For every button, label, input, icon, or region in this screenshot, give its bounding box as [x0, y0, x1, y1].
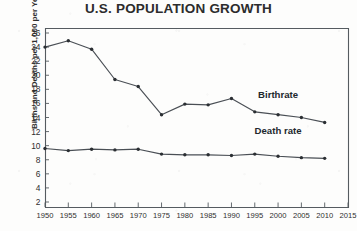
y-tick-label: 16	[31, 98, 41, 108]
data-point-birthrate-1985	[206, 103, 209, 106]
data-point-birthrate-1995	[253, 110, 256, 113]
data-point-death-rate-1955	[67, 149, 70, 152]
data-point-death-rate-1960	[90, 147, 93, 150]
x-tick-label: 2015	[340, 211, 357, 220]
x-tick-label: 2000	[270, 211, 287, 220]
x-tick-label: 1960	[83, 211, 100, 220]
data-point-death-rate-2010	[323, 157, 326, 160]
data-point-birthrate-2000	[276, 113, 279, 116]
data-point-death-rate-1980	[183, 153, 186, 156]
data-point-birthrate-1975	[160, 113, 163, 116]
y-tick-label: 4	[36, 183, 41, 193]
y-tick-label: 18	[31, 84, 41, 94]
x-tick-label: 1965	[106, 211, 123, 220]
y-axis-ticks: 2624222018161412108642	[31, 28, 49, 207]
series-annotation-birthrate: Birthrate	[258, 89, 298, 100]
series-line-birthrate	[45, 41, 325, 123]
x-axis-ticks: 1950195519601965197019751980198519901995…	[37, 203, 357, 221]
data-point-birthrate-1960	[90, 48, 93, 51]
data-point-birthrate-1965	[113, 78, 116, 81]
data-point-death-rate-2005	[300, 156, 303, 159]
data-point-birthrate-2010	[323, 121, 326, 124]
x-tick-label: 1985	[200, 211, 217, 220]
data-point-death-rate-1990	[230, 154, 233, 157]
x-tick-label: 2010	[316, 211, 333, 220]
data-point-birthrate-1990	[230, 97, 233, 100]
chart-page: U.S. POPULATION GROWTH Births and Deaths…	[0, 0, 357, 231]
data-point-death-rate-1975	[160, 152, 163, 155]
y-tick-label: 12	[31, 127, 41, 137]
y-tick-label: 24	[31, 42, 41, 52]
y-tick-label: 14	[31, 113, 41, 123]
x-tick-label: 1950	[37, 211, 54, 220]
data-point-death-rate-1985	[206, 153, 209, 156]
data-point-death-rate-1970	[137, 147, 140, 150]
data-point-death-rate-1995	[253, 152, 256, 155]
data-point-birthrate-1950	[43, 45, 46, 48]
y-tick-label: 8	[36, 155, 41, 165]
data-point-death-rate-2000	[276, 155, 279, 158]
data-point-birthrate-1955	[67, 39, 70, 42]
line-chart-plot: 2624222018161412108642 19501955196019651…	[0, 0, 357, 231]
y-tick-label: 22	[31, 56, 41, 66]
data-point-death-rate-1950	[43, 147, 46, 150]
data-point-birthrate-1970	[137, 85, 140, 88]
y-tick-label: 20	[31, 70, 41, 80]
x-tick-label: 1990	[223, 211, 240, 220]
x-tick-label: 1955	[60, 211, 77, 220]
y-tick-label: 6	[36, 169, 41, 179]
series-annotation-death-rate: Death rate	[255, 125, 302, 136]
x-tick-label: 1970	[130, 211, 147, 220]
x-tick-label: 1995	[246, 211, 263, 220]
x-tick-label: 1980	[176, 211, 193, 220]
y-tick-label: 26	[31, 28, 41, 38]
data-point-death-rate-1965	[113, 148, 116, 151]
y-tick-label: 2	[36, 197, 41, 207]
data-point-birthrate-2005	[300, 116, 303, 119]
x-tick-label: 2005	[293, 211, 310, 220]
data-point-birthrate-1980	[183, 102, 186, 105]
y-tick-label: 10	[31, 141, 41, 151]
x-tick-label: 1975	[153, 211, 170, 220]
